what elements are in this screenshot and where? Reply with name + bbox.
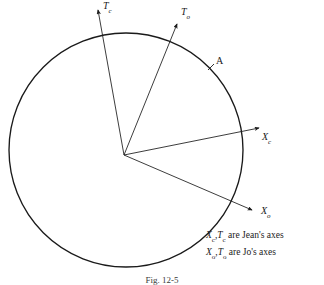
axis-label-tc: Tc (103, 1, 112, 14)
legend-line-1-sub1: c (212, 236, 215, 244)
legend-line-1-sym2: T (217, 230, 222, 240)
axis-label-tc-symbol: T (103, 0, 109, 11)
axis-label-xo: Xo (261, 206, 271, 219)
axis-ray-xc (124, 128, 259, 155)
axis-label-to: To (181, 7, 190, 20)
axis-label-to-subscript: o (187, 13, 191, 21)
legend-line-2-sym1: X (206, 247, 212, 257)
axis-ray-tc (98, 10, 124, 155)
point-label-a: A (216, 56, 223, 66)
legend: Xc,Tc are Jean's axes Xo,To are Jo's axe… (206, 229, 284, 263)
axis-label-xc-subscript: c (268, 138, 271, 146)
legend-line-2-sub1: o (212, 253, 216, 261)
axis-ray-xo (124, 155, 252, 210)
legend-line-1-sub2: c (223, 236, 226, 244)
figure-caption: Fig. 12-5 (0, 275, 324, 285)
axis-label-xo-subscript: o (267, 212, 271, 220)
legend-line-1: Xc,Tc are Jean's axes (206, 229, 284, 246)
figure-container: Tc To Xc Xo A Xc,Tc are Jean's axes Xo,T… (0, 0, 324, 285)
legend-line-2-sub2: o (223, 253, 227, 261)
axis-label-tc-subscript: c (109, 7, 112, 15)
axis-label-xc: Xc (262, 132, 271, 145)
legend-line-1-text: are Jean's axes (226, 230, 284, 240)
legend-line-2-text: are Jo's axes (226, 247, 275, 257)
axis-label-to-symbol: T (181, 6, 187, 17)
legend-line-2: Xo,To are Jo's axes (206, 246, 284, 263)
legend-line-1-sym1: X (206, 230, 212, 240)
axis-ray-to (124, 24, 177, 155)
